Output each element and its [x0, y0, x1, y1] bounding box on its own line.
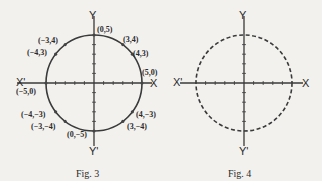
- point-label: (5,0): [142, 68, 158, 77]
- y-axis-label: Y: [89, 9, 97, 21]
- y-axis-label: Y: [239, 9, 247, 21]
- point-label: (0,5): [97, 25, 113, 34]
- figure-caption: Fig. 4: [228, 168, 251, 179]
- diagram-canvas: Y Y' X' X (0,5) (3,4) (4,3) (5,0) (4,−3)…: [0, 0, 322, 181]
- point-label: (3,−4): [127, 122, 147, 131]
- y-neg-axis-label: Y': [239, 145, 248, 157]
- point-label: (0,−5): [67, 130, 87, 139]
- point-label: (−4,3): [27, 48, 47, 57]
- point-label: (3,4): [123, 35, 139, 44]
- point-label: (−5,0): [16, 87, 36, 96]
- figure-4: Y Y' X' X Fig. 4: [173, 9, 310, 179]
- x-axis-label: X: [302, 77, 310, 89]
- point-label: (4,3): [133, 49, 149, 58]
- y-neg-axis-label: Y': [89, 145, 98, 157]
- point-label: (4,−3): [136, 110, 156, 119]
- figure-3: Y Y' X' X (0,5) (3,4) (4,3) (5,0) (4,−3)…: [16, 9, 158, 179]
- x-axis-label: X: [150, 77, 158, 89]
- point-label: (−4,−3): [21, 110, 46, 119]
- x-neg-axis-label: X': [173, 76, 182, 88]
- point-label: (−3,4): [38, 36, 58, 45]
- point-label: (−3,−4): [31, 122, 56, 131]
- figure-caption: Fig. 3: [76, 168, 99, 179]
